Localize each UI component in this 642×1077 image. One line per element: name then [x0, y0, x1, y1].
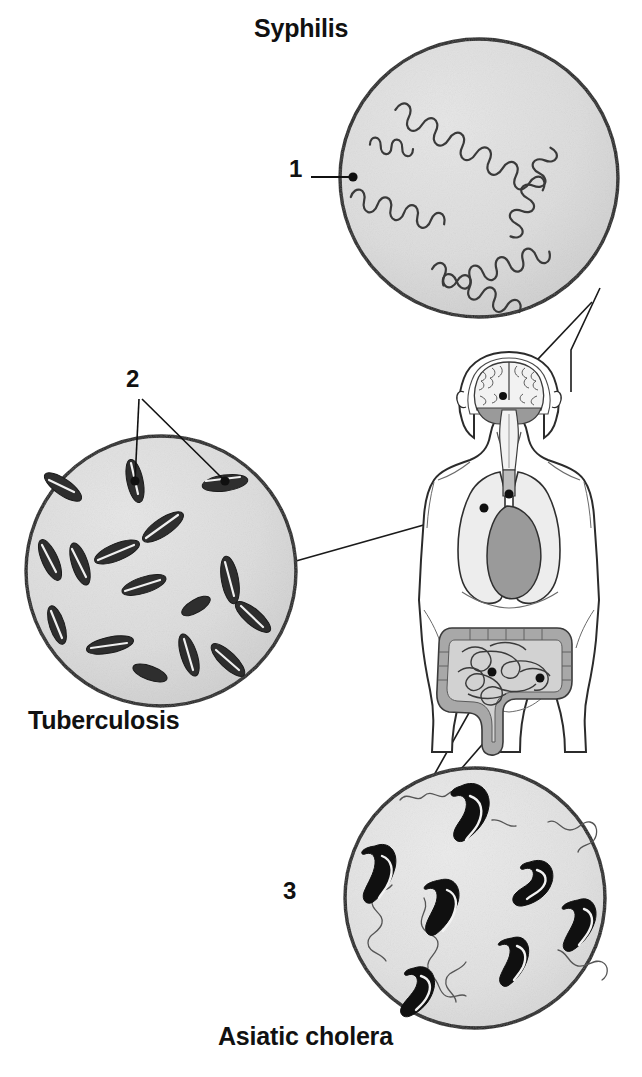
marker-mediastinum [505, 490, 514, 499]
callout-label-3: 3 [283, 877, 296, 905]
marker-colon [536, 674, 545, 683]
caption-syphilis: Syphilis [254, 14, 348, 43]
caption-cholera: Asiatic cholera [218, 1022, 393, 1051]
diagram-canvas [0, 0, 642, 1077]
marker-small-intestine [488, 668, 497, 677]
caption-tuberculosis: Tuberculosis [28, 706, 179, 735]
callout-label-2: 2 [126, 365, 139, 393]
tuberculosis-disc [26, 436, 296, 706]
brain [474, 362, 543, 410]
marker-brain [499, 392, 507, 400]
marker-lung [480, 504, 489, 513]
human-torso [419, 352, 599, 755]
bacterial-disease-diagram: Syphilis Tuberculosis Asiatic cholera 1 … [0, 0, 642, 1077]
syphilis-disc [340, 39, 618, 327]
cholera-disc [345, 768, 607, 1028]
callout-label-1: 1 [289, 155, 302, 183]
